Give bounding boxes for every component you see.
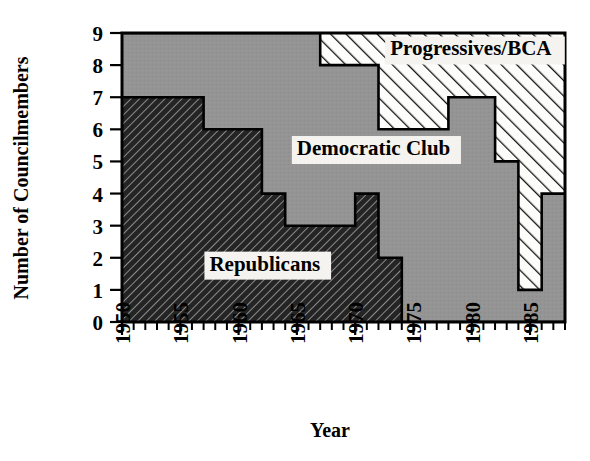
y-tick-label: 2 bbox=[93, 247, 104, 271]
x-tick-label: 1950 bbox=[111, 302, 135, 344]
series-label-republicans: Republicans bbox=[209, 252, 320, 276]
y-tick-label: 6 bbox=[93, 118, 104, 142]
y-tick-label: 5 bbox=[93, 150, 104, 174]
y-tick-label: 1 bbox=[93, 279, 104, 303]
y-tick-label: 4 bbox=[93, 183, 104, 207]
y-tick-label: 3 bbox=[93, 215, 104, 239]
x-tick-label: 1975 bbox=[402, 302, 426, 344]
council-composition-chart: 0123456789 19501955196019651970197519801… bbox=[0, 0, 590, 461]
x-tick-label: 1965 bbox=[286, 302, 310, 344]
x-tick-label: 1955 bbox=[169, 302, 193, 344]
x-axis-title: Year bbox=[310, 419, 350, 441]
x-tick-label: 1960 bbox=[228, 302, 252, 344]
series-label-democratic_club: Democratic Club bbox=[297, 136, 450, 160]
y-tick-label: 9 bbox=[93, 22, 104, 46]
x-tick-label: 1980 bbox=[461, 302, 485, 344]
x-tick-label: 1985 bbox=[519, 302, 543, 344]
x-tick-label: 1970 bbox=[344, 302, 368, 344]
stacked-area-bands bbox=[122, 33, 565, 322]
series-label-progressives: Progressives/BCA bbox=[390, 36, 552, 60]
y-tick-label: 7 bbox=[93, 86, 104, 110]
chart-container: 0123456789 19501955196019651970197519801… bbox=[0, 0, 590, 461]
y-tick-label: 0 bbox=[93, 311, 104, 335]
y-axis-title: Number of Councilmembers bbox=[10, 56, 32, 299]
y-tick-label: 8 bbox=[93, 54, 104, 78]
